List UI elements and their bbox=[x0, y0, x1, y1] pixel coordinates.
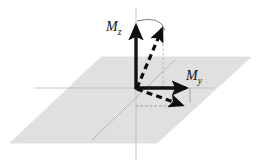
figure-root: Mz My bbox=[0, 0, 257, 166]
mz-label: Mz bbox=[105, 19, 122, 37]
vector-diagram: Mz My bbox=[0, 0, 257, 166]
xy-plane bbox=[10, 57, 251, 143]
mz-label-subscript: z bbox=[117, 27, 122, 37]
rotation-arc bbox=[137, 19, 165, 30]
my-label-subscript: y bbox=[197, 76, 203, 86]
